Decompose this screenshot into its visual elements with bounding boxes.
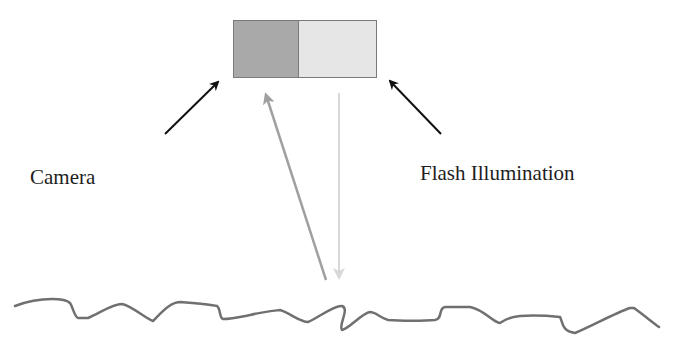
camera-block (234, 21, 299, 78)
diagram-canvas (0, 0, 680, 353)
device (234, 21, 377, 78)
flash-block (299, 21, 377, 78)
camera-label: Camera (30, 167, 95, 188)
flash-pointer-arrow (390, 81, 441, 134)
rough-surface-line (15, 299, 659, 333)
reflected-light-arrow (266, 95, 326, 280)
flash-illumination-label: Flash Illumination (420, 163, 575, 184)
camera-pointer-arrow (165, 82, 218, 134)
